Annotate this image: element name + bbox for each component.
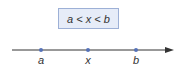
point-x [86, 48, 90, 52]
label-b: b [130, 54, 142, 66]
arrowhead-icon [165, 47, 174, 53]
label-a: a [35, 54, 47, 66]
point-a [39, 48, 43, 52]
point-b [134, 48, 138, 52]
label-x: x [82, 54, 94, 66]
number-line [0, 0, 189, 67]
